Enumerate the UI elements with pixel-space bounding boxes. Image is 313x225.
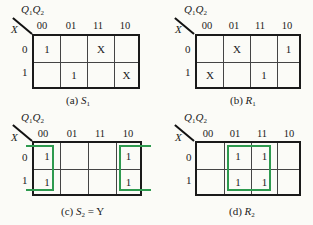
row-header: 1 (186, 174, 192, 186)
kmap-cell (60, 169, 88, 194)
kmap-cell: X (114, 62, 138, 87)
kmap-cell (197, 169, 224, 194)
kmap-cell (87, 62, 114, 87)
kmap-cell (88, 169, 116, 194)
kmap-cell (88, 143, 116, 169)
row-header: 0 (22, 43, 28, 55)
row-var-label: X (175, 131, 182, 143)
caption: (c) S2 = Y (61, 205, 104, 219)
caption: (b) R1 (230, 94, 256, 108)
col-header: 10 (118, 128, 138, 139)
group-loop (227, 145, 271, 191)
kmap-grid: 1 X 1 X (32, 34, 140, 89)
col-header: 00 (33, 128, 53, 139)
kmap-cell (60, 143, 88, 169)
caption: (d) R2 (229, 205, 255, 219)
col-header: 11 (250, 20, 270, 31)
kmap-cell: 1 (34, 36, 60, 62)
kmap-cell (277, 169, 299, 194)
row-var-label: X (11, 131, 18, 143)
col-header: 01 (225, 128, 245, 139)
kmap-cell: 1 (60, 62, 87, 87)
kmap-cell: 1 (277, 36, 299, 62)
col-header: 11 (90, 128, 110, 139)
kmap-cell (250, 36, 277, 62)
col-header: 11 (252, 128, 272, 139)
row-header: 0 (22, 151, 28, 163)
kmap-cell (223, 62, 250, 87)
kmap-cell: X (223, 36, 250, 62)
kmap-cell (197, 143, 224, 169)
col-header: 01 (224, 20, 244, 31)
kmap-cell (277, 143, 299, 169)
kmap-grid: X 1 X 1 (195, 34, 301, 89)
col-header: 00 (197, 20, 217, 31)
col-header: 01 (62, 128, 82, 139)
kmap-cell: X (87, 36, 114, 62)
row-header: 1 (22, 174, 28, 186)
row-var-label: X (175, 23, 182, 35)
kmap-cell (277, 62, 299, 87)
col-header: 01 (61, 20, 81, 31)
row-header: 0 (185, 43, 191, 55)
row-var-label: X (11, 23, 18, 35)
group-loop-right (119, 145, 141, 191)
group-extension-line (26, 145, 34, 147)
kmap-cell (60, 36, 87, 62)
group-extension-line (26, 189, 34, 191)
row-header: 0 (186, 151, 192, 163)
col-header: 00 (198, 128, 218, 139)
caption: (a) S1 (66, 94, 90, 108)
kmap-cell (34, 62, 60, 87)
col-header: 10 (279, 128, 299, 139)
kmap-cell (114, 36, 138, 62)
kmap-cell: X (197, 62, 223, 87)
col-header: 10 (277, 20, 297, 31)
col-var-label: Q1Q2 (21, 3, 44, 17)
group-extension-line (139, 189, 151, 191)
col-var-label: Q1Q2 (21, 111, 44, 125)
kmap-cell (197, 36, 223, 62)
col-header: 10 (115, 20, 135, 31)
col-header: 00 (32, 20, 52, 31)
row-header: 1 (185, 66, 191, 78)
group-extension-line (139, 145, 151, 147)
col-header: 11 (88, 20, 108, 31)
kmap-cell: 1 (250, 62, 277, 87)
col-var-label: Q1Q2 (184, 3, 207, 17)
col-var-label: Q1Q2 (184, 111, 207, 125)
group-loop-left (32, 145, 54, 191)
row-header: 1 (22, 66, 28, 78)
